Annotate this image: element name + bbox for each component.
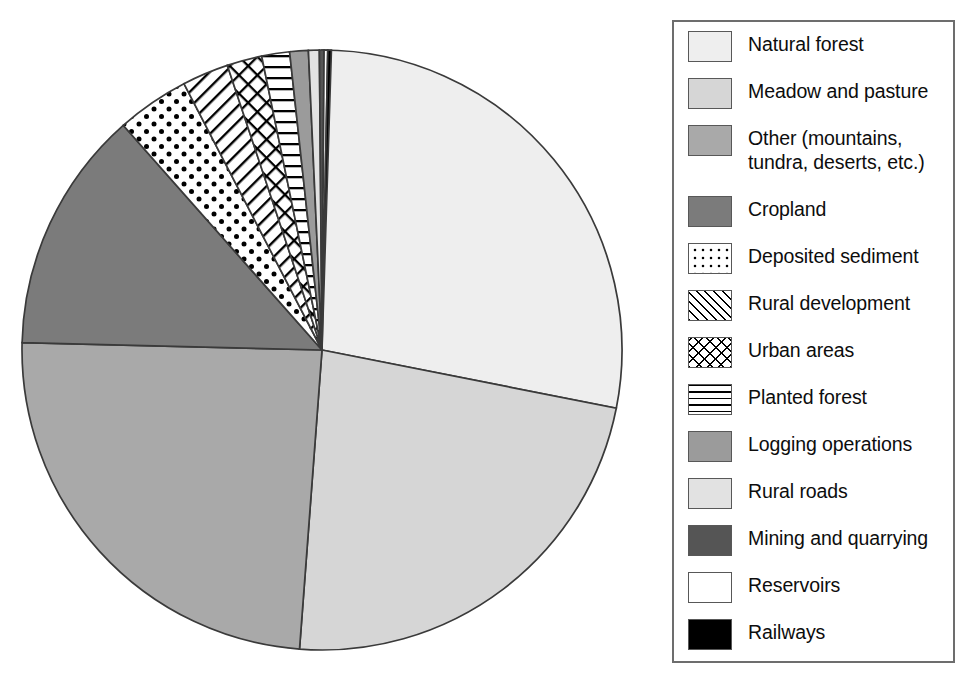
legend-swatch: [688, 572, 732, 603]
legend-item: Cropland: [688, 193, 946, 231]
legend-swatch: [688, 78, 732, 109]
legend-item: Rural roads: [688, 475, 946, 513]
legend-item: Logging operations: [688, 428, 946, 466]
legend-label: Planted forest: [748, 381, 867, 409]
legend-swatch: [688, 431, 732, 462]
pie-chart: [0, 0, 660, 684]
legend-label: Cropland: [748, 193, 826, 221]
legend-item: Railways: [688, 616, 946, 654]
legend-item: Other (mountains, tundra, deserts, etc.): [688, 122, 946, 184]
pie-chart-figure: Natural forestMeadow and pastureOther (m…: [0, 0, 971, 684]
legend-swatch: [688, 243, 732, 274]
legend-swatch: [688, 31, 732, 62]
legend-item-list: Natural forestMeadow and pastureOther (m…: [688, 28, 946, 663]
legend-label: Logging operations: [748, 428, 912, 456]
legend-swatch: [688, 196, 732, 227]
legend-box: Natural forestMeadow and pastureOther (m…: [672, 20, 955, 663]
legend-label: Natural forest: [748, 28, 864, 56]
legend-label: Meadow and pasture: [748, 75, 928, 103]
legend-swatch: [688, 525, 732, 556]
legend-item: Reservoirs: [688, 569, 946, 607]
legend-label: Rural roads: [748, 475, 848, 503]
legend-item: Urban areas: [688, 334, 946, 372]
legend-label: Mining and quarrying: [748, 522, 928, 550]
legend-item: Planted forest: [688, 381, 946, 419]
legend-label: Reservoirs: [748, 569, 840, 597]
legend-item: Deposited sediment: [688, 240, 946, 278]
legend-label: Rural development: [748, 287, 910, 315]
legend-label: Deposited sediment: [748, 240, 919, 268]
legend-swatch: [688, 337, 732, 368]
legend-swatch: [688, 478, 732, 509]
legend-swatch: [688, 125, 732, 156]
legend-swatch: [688, 290, 732, 321]
legend-label: Other (mountains, tundra, deserts, etc.): [748, 122, 925, 174]
legend-label: Railways: [748, 616, 825, 644]
legend-item: Rural development: [688, 287, 946, 325]
legend-swatch: [688, 384, 732, 415]
legend-item: Meadow and pasture: [688, 75, 946, 113]
legend-label: Urban areas: [748, 334, 854, 362]
legend-swatch: [688, 619, 732, 650]
legend-item: Natural forest: [688, 28, 946, 66]
pie-slice: [322, 50, 622, 408]
legend-item: Mining and quarrying: [688, 522, 946, 560]
pie-slice-group: [22, 50, 622, 650]
pie-slice: [22, 343, 322, 649]
